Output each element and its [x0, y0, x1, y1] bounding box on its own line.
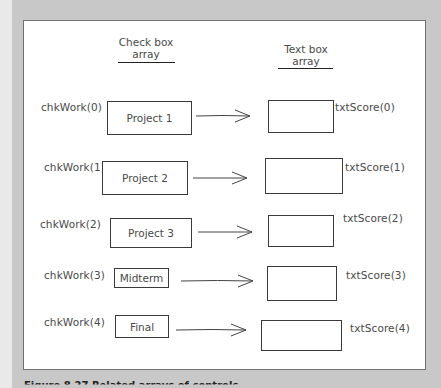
textbox-control[interactable]: [261, 320, 342, 351]
textbox-control[interactable]: [267, 266, 337, 301]
checkbox-control[interactable]: Project 3: [110, 218, 192, 248]
checkbox-label: Project 1: [127, 112, 173, 124]
checkbox-array-header: Check box array: [106, 36, 186, 60]
page-margin: [0, 0, 12, 388]
chk-name-label: chkWork(0): [41, 101, 102, 113]
txt-name-label: txtScore(0): [335, 101, 395, 113]
textbox-array-header-line2: array: [266, 55, 346, 67]
txt-name-label: txtScore(3): [346, 269, 406, 281]
checkbox-control[interactable]: Final: [115, 315, 169, 338]
checkbox-control[interactable]: Midterm: [114, 268, 169, 288]
arrow-right-icon: [180, 273, 256, 289]
textbox-array-underline: [278, 68, 333, 69]
checkbox-array-underline: [118, 62, 175, 63]
checkbox-label: Midterm: [120, 272, 164, 284]
arrow-right-icon: [197, 224, 255, 240]
checkbox-control[interactable]: Project 1: [107, 101, 192, 135]
textbox-array-header-line1: Text box: [266, 43, 346, 55]
arrow-right-icon: [195, 108, 253, 124]
textbox-control[interactable]: [268, 100, 334, 133]
txt-name-label: txtScore(4): [350, 322, 410, 334]
checkbox-label: Final: [130, 321, 154, 333]
txt-name-label: txtScore(2): [343, 212, 403, 224]
textbox-array-header: Text box array: [266, 43, 346, 67]
checkbox-array-header-line2: array: [106, 48, 186, 60]
chk-name-label: chkWork(4): [44, 316, 105, 328]
checkbox-label: Project 3: [128, 227, 174, 239]
checkbox-array-header-line1: Check box: [106, 36, 186, 48]
chk-name-label: chkWork(1): [44, 161, 105, 173]
textbox-control[interactable]: [265, 158, 343, 194]
txt-name-label: txtScore(1): [345, 161, 405, 173]
checkbox-control[interactable]: Project 2: [102, 161, 188, 195]
arrow-right-icon: [175, 322, 249, 338]
figure-caption: Figure 8.27 Related arrays of controls: [24, 380, 238, 388]
checkbox-label: Project 2: [122, 172, 168, 184]
textbox-control[interactable]: [268, 215, 334, 247]
chk-name-label: chkWork(3): [44, 269, 105, 281]
arrow-right-icon: [192, 170, 250, 186]
chk-name-label: chkWork(2): [40, 218, 101, 230]
